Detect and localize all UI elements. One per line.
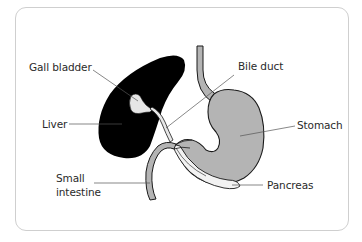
small-intestine-shape bbox=[146, 142, 176, 200]
label-pancreas: Pancreas bbox=[267, 178, 313, 192]
label-gall-bladder: Gall bladder bbox=[29, 60, 92, 74]
label-stomach: Stomach bbox=[297, 118, 343, 132]
label-small-intestine-line2: intestine bbox=[56, 185, 101, 199]
label-bile-duct: Bile duct bbox=[238, 59, 283, 73]
label-liver: Liver bbox=[42, 117, 67, 131]
label-small-intestine-line1: Small bbox=[56, 171, 85, 185]
